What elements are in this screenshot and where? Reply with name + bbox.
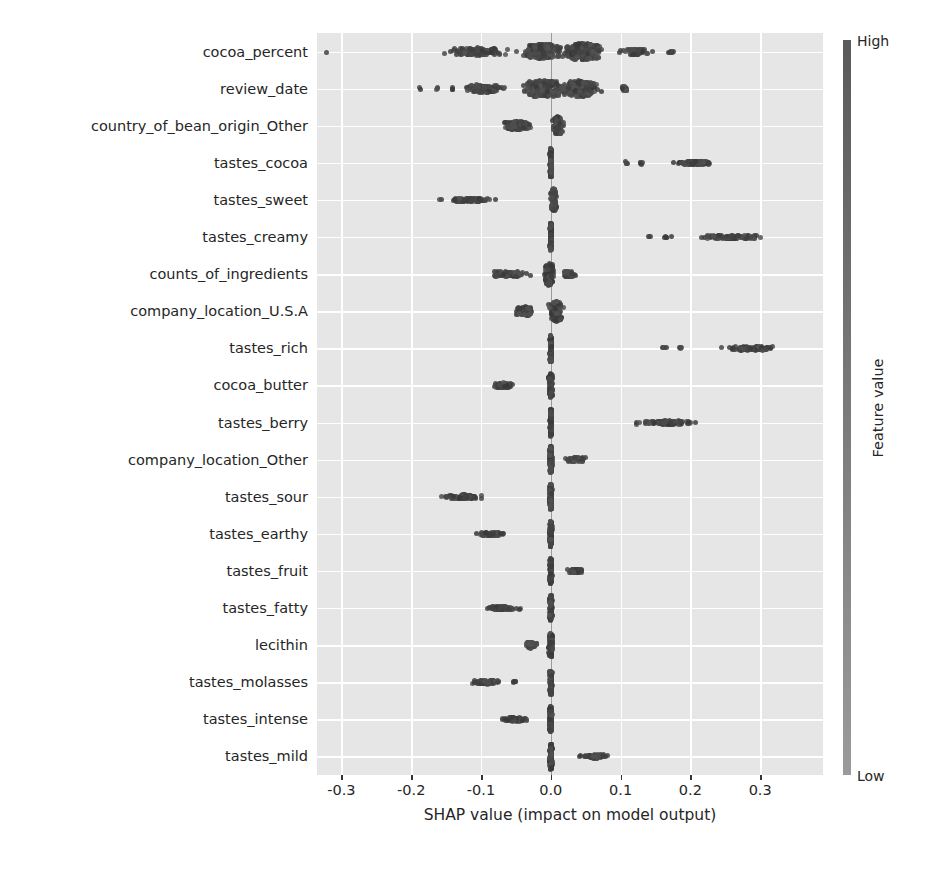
swarm-point — [527, 92, 532, 97]
swarm-point — [571, 51, 576, 56]
swarm-point — [418, 87, 423, 92]
swarm-point — [681, 160, 686, 165]
swarm-point — [490, 606, 495, 611]
swarm-point — [571, 82, 576, 87]
swarm-point — [577, 89, 582, 94]
feature-label-tastes_sweet: tastes_sweet — [0, 192, 308, 208]
feature-label-cocoa_butter: cocoa_butter — [0, 377, 308, 393]
swarm-point — [541, 50, 546, 55]
swarm-point — [594, 56, 599, 61]
swarm-point — [483, 50, 488, 55]
swarm-point — [549, 390, 554, 395]
beeswarm-points-layer — [317, 33, 823, 775]
swarm-point — [549, 223, 554, 228]
swarm-point — [548, 245, 553, 250]
swarm-point — [497, 51, 502, 56]
swarm-point — [487, 89, 492, 94]
swarm-point — [573, 273, 578, 278]
swarm-point — [632, 47, 637, 52]
x-axis-title: SHAP value (impact on model output) — [317, 806, 823, 824]
feature-label-company_location_Other: company_location_Other — [0, 452, 308, 468]
swarm-point — [664, 345, 669, 350]
swarm-point — [699, 235, 704, 240]
swarm-point — [599, 89, 604, 94]
feature-label-tastes_mild: tastes_mild — [0, 748, 308, 764]
x-tick-label: 0.2 — [679, 782, 702, 798]
swarm-point — [693, 420, 698, 425]
swarm-point — [549, 527, 554, 532]
swarm-point — [561, 120, 566, 125]
swarm-point — [469, 52, 474, 57]
swarm-point — [768, 346, 773, 351]
swarm-point — [548, 572, 553, 577]
swarm-point — [548, 537, 553, 542]
colorbar-title: Feature value — [870, 358, 886, 457]
x-tick-label: 0.1 — [609, 782, 632, 798]
swarm-point — [650, 49, 655, 54]
swarm-point — [558, 317, 563, 322]
swarm-point — [565, 457, 570, 462]
feature-label-tastes_berry: tastes_berry — [0, 415, 308, 431]
swarm-point — [549, 673, 554, 678]
feature-label-counts_of_ingredients: counts_of_ingredients — [0, 266, 308, 282]
swarm-point — [660, 420, 665, 425]
feature-label-tastes_intense: tastes_intense — [0, 711, 308, 727]
swarm-point — [554, 131, 559, 136]
swarm-point — [522, 312, 527, 317]
swarm-point — [560, 129, 565, 134]
swarm-point — [760, 348, 765, 353]
swarm-point — [651, 421, 656, 426]
swarm-point — [631, 52, 636, 57]
swarm-point — [514, 49, 519, 54]
swarm-point — [548, 594, 553, 599]
swarm-point — [744, 236, 749, 241]
swarm-point — [551, 191, 556, 196]
swarm-point — [491, 531, 496, 536]
swarm-point — [525, 306, 530, 311]
swarm-point — [623, 49, 628, 54]
swarm-point — [548, 681, 553, 686]
swarm-point — [548, 411, 553, 416]
swarm-point — [572, 455, 577, 460]
colorbar-high-label: High — [857, 33, 889, 49]
swarm-point — [549, 765, 554, 770]
swarm-point — [644, 51, 649, 56]
swarm-point — [478, 532, 483, 537]
swarm-point — [517, 607, 522, 612]
swarm-point — [583, 80, 588, 85]
swarm-point — [736, 233, 741, 238]
swarm-point — [637, 420, 642, 425]
swarm-point — [575, 55, 580, 60]
swarm-point — [546, 267, 551, 272]
swarm-point — [549, 557, 554, 562]
swarm-point — [455, 49, 460, 54]
swarm-point — [527, 312, 532, 317]
swarm-point — [555, 311, 560, 316]
swarm-point — [505, 383, 510, 388]
swarm-point — [526, 47, 531, 52]
x-tick-label: 0.3 — [749, 782, 772, 798]
swarm-point — [663, 234, 668, 239]
swarm-point — [548, 445, 553, 450]
swarm-point — [549, 420, 554, 425]
swarm-point — [647, 234, 652, 239]
swarm-point — [583, 455, 588, 460]
swarm-point — [549, 431, 554, 436]
swarm-point — [324, 50, 329, 55]
swarm-point — [624, 88, 629, 93]
swarm-point — [549, 491, 554, 496]
x-tick-mark — [760, 775, 762, 780]
feature-label-cocoa_percent: cocoa_percent — [0, 44, 308, 60]
swarm-point — [548, 746, 553, 751]
swarm-point — [758, 235, 763, 240]
feature-label-tastes_rich: tastes_rich — [0, 340, 308, 356]
feature-labels-axis: cocoa_percentreview_datecountry_of_bean_… — [0, 33, 308, 775]
swarm-point — [549, 312, 554, 317]
swarm-point — [548, 333, 553, 338]
swarm-point — [618, 48, 623, 53]
feature-label-tastes_molasses: tastes_molasses — [0, 674, 308, 690]
swarm-point — [495, 680, 500, 685]
swarm-point — [487, 197, 492, 202]
swarm-point — [517, 271, 522, 276]
swarm-point — [693, 159, 698, 164]
